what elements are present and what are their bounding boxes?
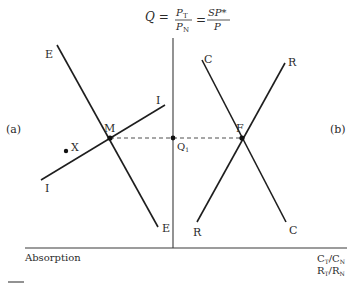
- panel-label-a: (a): [6, 123, 21, 136]
- label-R-bottom: R: [193, 226, 202, 239]
- axis-label-cn-main: /C: [329, 253, 340, 264]
- label-E-bottom: E: [162, 222, 170, 235]
- label-Q1: Q1: [177, 141, 189, 153]
- axis-label-rn-main: /R: [329, 265, 340, 276]
- curve-I: [41, 105, 165, 180]
- label-C-top: C: [204, 53, 212, 66]
- label-I-bottom: I: [45, 182, 49, 195]
- label-I-top: I: [156, 94, 160, 107]
- axis-label-rn-sub: N: [339, 270, 344, 277]
- formula-eq: =: [196, 13, 206, 27]
- formula-frac2-den: P: [213, 21, 221, 32]
- formula-frac1-num: P: [175, 7, 183, 18]
- title-formula: Q = P T P N = SP* P: [145, 7, 230, 34]
- axis-label-ct-cn: CT/CN: [317, 253, 345, 265]
- label-C-bottom: C: [289, 224, 297, 237]
- point-M-dot: [107, 135, 112, 140]
- formula-frac2-num: SP*: [208, 7, 227, 18]
- label-E-top: E: [45, 48, 53, 61]
- formula-frac1-den: P: [175, 21, 183, 32]
- axis-label-cn-sub: N: [340, 258, 345, 265]
- formula-lhs: Q =: [145, 10, 169, 24]
- curve-E: [57, 45, 158, 227]
- formula-frac1-den-sub: N: [183, 26, 189, 34]
- point-Q1-dot: [171, 136, 176, 141]
- axis-label-rt-rn: RT/RN: [317, 265, 345, 277]
- axis-label-absorption: Absorption: [24, 252, 81, 263]
- label-Q1-main: Q: [177, 141, 185, 152]
- point-X-dot: [64, 149, 68, 153]
- curve-R: [197, 63, 285, 222]
- label-R-top: R: [288, 56, 297, 69]
- label-M: M: [104, 122, 115, 135]
- label-Q1-sub: 1: [185, 146, 189, 153]
- panel-label-b: (b): [330, 123, 346, 136]
- point-F-dot: [239, 135, 244, 140]
- formula-frac1-num-sub: T: [183, 12, 188, 20]
- label-X: X: [71, 141, 79, 154]
- label-F: F: [236, 122, 244, 135]
- economics-diagram: Q = P T P N = SP* P E E I I C C R R M X …: [0, 0, 355, 284]
